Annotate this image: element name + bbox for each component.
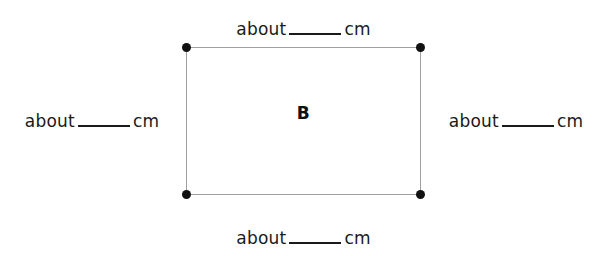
vertex-dot-bottom-right [416, 190, 425, 199]
measurement-bottom-unit: cm [344, 228, 370, 248]
measurement-worksheet: aboutcm aboutcm aboutcm aboutcm B [0, 0, 615, 256]
rectangle-edge-top [186, 47, 421, 48]
measurement-left-blank[interactable] [78, 111, 130, 127]
vertex-dot-bottom-left [182, 190, 191, 199]
measurement-bottom-prefix: about [236, 228, 286, 248]
vertex-dot-top-left [182, 43, 191, 52]
measurement-top-prefix: about [236, 19, 286, 39]
measurement-label-left: aboutcm [12, 111, 172, 131]
measurement-label-bottom: aboutcm [186, 228, 421, 248]
measurement-right-unit: cm [557, 111, 583, 131]
measurement-top-unit: cm [344, 19, 370, 39]
figure-label-b: B [186, 103, 421, 123]
vertex-dot-top-right [416, 43, 425, 52]
measurement-bottom-blank[interactable] [289, 228, 341, 244]
measurement-label-right: aboutcm [436, 111, 596, 131]
measurement-top-blank[interactable] [289, 19, 341, 35]
rectangle-figure: B [186, 47, 421, 195]
rectangle-edge-bottom [186, 194, 421, 195]
measurement-right-blank[interactable] [502, 111, 554, 127]
measurement-right-prefix: about [449, 111, 499, 131]
measurement-label-top: aboutcm [186, 19, 421, 39]
measurement-left-prefix: about [25, 111, 75, 131]
measurement-left-unit: cm [133, 111, 159, 131]
